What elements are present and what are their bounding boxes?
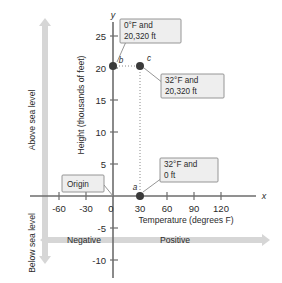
y-tick-label-10: 10 <box>95 127 106 138</box>
data-point-a[interactable] <box>136 192 144 200</box>
x-tick-label-0: 0 <box>108 203 113 214</box>
callout-c-line2: 20,320 ft <box>165 87 198 96</box>
callout-point-c: 32°F and 20,320 ft <box>161 74 224 98</box>
x-tick-label-neg30: -30 <box>79 203 93 214</box>
callout-point-a: 32°F and 0 ft <box>160 158 218 182</box>
x-tick-label-90: 90 <box>189 203 200 214</box>
negative-label: Negative <box>67 235 101 245</box>
x-tick-label-120: 120 <box>213 203 229 214</box>
leader-line-c <box>144 68 163 83</box>
above-sea-level-label: Above sea level <box>27 90 37 151</box>
y-tick-label-neg10: -10 <box>92 255 106 266</box>
callout-a-line1: 32°F and <box>164 160 198 169</box>
callout-c-line1: 32°F and <box>165 76 199 85</box>
leader-line-a <box>143 178 162 192</box>
positive-label: Positive <box>160 235 190 245</box>
data-point-label-a: a <box>133 183 138 192</box>
x-tick-label-30: 30 <box>135 203 146 214</box>
vertical-sea-level-band <box>39 18 51 264</box>
callout-b-line2: 20,320 ft <box>124 32 157 41</box>
y-axis-letter: y <box>110 10 116 20</box>
data-point-c[interactable] <box>136 62 144 70</box>
y-tick-label-20: 20 <box>95 63 106 74</box>
callout-a-line2: 0 ft <box>164 171 176 180</box>
callout-b-line1: 0°F and <box>124 21 153 30</box>
x-axis-title: Temperature (degrees F) <box>138 215 233 225</box>
y-tick-label-neg5: -5 <box>98 223 106 234</box>
below-sea-level-label: Below sea level <box>27 213 37 273</box>
leader-line-origin <box>104 185 113 196</box>
data-point-label-b: b <box>119 56 124 65</box>
callout-origin: Origin <box>62 175 104 192</box>
coordinate-plane-figure: Above sea level Below sea level Negative… <box>0 0 282 283</box>
y-tick-label-25: 25 <box>95 31 106 42</box>
x-tick-label-neg60: -60 <box>52 203 66 214</box>
y-tick-label-5: 5 <box>101 159 106 170</box>
x-axis-letter: x <box>261 191 267 201</box>
data-point-b[interactable] <box>109 62 117 70</box>
y-tick-label-15: 15 <box>95 95 106 106</box>
data-point-label-c: c <box>147 54 151 63</box>
callout-point-b: 0°F and 20,320 ft <box>120 19 181 43</box>
callout-origin-label: Origin <box>67 180 89 189</box>
x-tick-label-60: 60 <box>162 203 173 214</box>
y-axis-title: Height (thousands of feet) <box>76 55 86 154</box>
